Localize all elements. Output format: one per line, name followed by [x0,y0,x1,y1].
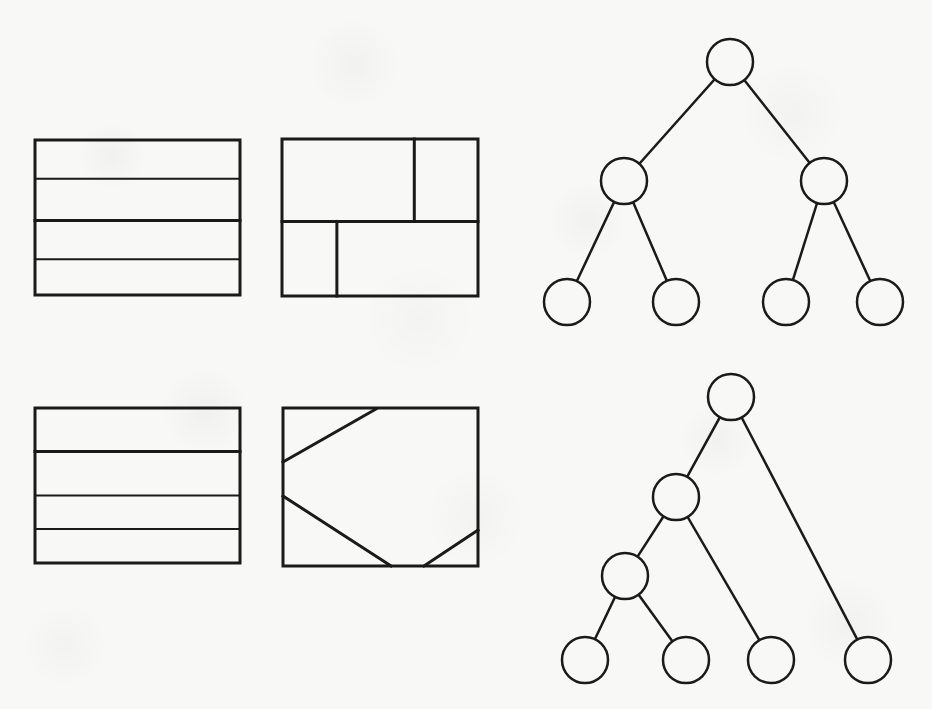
binary-tree-balanced-nodes [544,39,903,325]
rectangle-partition-horizontal-slabs-a-border [35,140,240,295]
binary-tree-left-skewed-node-b-b[interactable] [602,553,648,599]
binary-tree-left-skewed-node-b-l1[interactable] [562,637,608,683]
rectangle-partition-diagonal-cuts-cut-0-diagonal [283,409,376,462]
binary-tree-balanced-edge-t-root-t-l [639,78,716,164]
binary-tree-left-skewed-node-b-l4[interactable] [845,637,891,683]
binary-tree-left-skewed-nodes [562,374,891,683]
rectangle-partition-pinwheel [282,139,478,296]
binary-tree-left-skewed-edge-b-root-b-a [687,416,721,477]
binary-tree-balanced-node-t-r[interactable] [801,158,847,204]
binary-tree-balanced-node-t-root[interactable] [707,39,753,85]
binary-tree-balanced-edge-t-r-t-rr [833,201,871,282]
binary-tree-left-skewed-edge-b-a-b-l3 [687,516,760,641]
rectangle-partition-horizontal-slabs-b-border [35,408,240,563]
binary-tree-left-skewed-edge-b-a-b-b [637,515,664,557]
binary-tree-balanced-edge-t-r-t-rl [793,202,818,281]
binary-tree-left-skewed-edge-b-root-b-l4 [741,417,858,641]
figure-canvas [0,0,932,709]
binary-tree-balanced-edge-t-l-t-lr [633,201,668,282]
binary-tree-left-skewed-edge-b-b-b-l1 [594,596,615,640]
binary-tree-left-skewed-node-b-l2[interactable] [663,637,709,683]
binary-tree-left-skewed-node-b-l3[interactable] [748,637,794,683]
binary-tree-balanced-node-t-l[interactable] [601,158,647,204]
rectangle-partition-diagonal-cuts-border [283,408,478,566]
rectangle-partition-diagonal-cuts-cut-2-diagonal [424,530,478,566]
binary-tree-balanced-edge-t-root-t-r [744,79,811,163]
binary-tree-left-skewed-edge-b-b-b-l2 [638,594,673,642]
binary-tree-balanced [544,39,903,325]
rectangle-partition-horizontal-slabs-b [35,408,240,563]
binary-tree-left-skewed [562,374,891,683]
binary-tree-balanced-edge-t-l-t-ll [576,201,614,282]
rectangle-partition-pinwheel-border [282,139,478,296]
binary-tree-balanced-node-t-rr[interactable] [857,279,903,325]
binary-tree-left-skewed-edges [594,416,857,642]
binary-tree-balanced-node-t-lr[interactable] [653,279,699,325]
rectangle-partition-diagonal-cuts [283,408,478,566]
binary-tree-balanced-node-t-ll[interactable] [544,279,590,325]
figure-page [0,0,932,709]
binary-tree-balanced-node-t-rl[interactable] [763,279,809,325]
binary-tree-left-skewed-node-b-root[interactable] [708,374,754,420]
rectangle-partition-horizontal-slabs-a [35,140,240,295]
binary-tree-left-skewed-node-b-a[interactable] [653,474,699,520]
rectangle-partition-diagonal-cuts-cut-1-diagonal [283,496,391,566]
